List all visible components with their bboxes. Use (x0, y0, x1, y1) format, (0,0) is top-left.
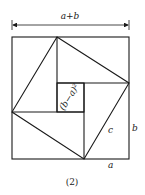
dimension-arrow (12, 20, 129, 30)
side-b-label: b (132, 123, 138, 133)
side-a-label: a (108, 160, 113, 170)
hypotenuse-label: c (108, 125, 113, 135)
inner-square-label: (b−a)² (57, 82, 81, 112)
top-dimension-label: a+b (61, 11, 80, 21)
figure-caption: (2) (66, 177, 79, 187)
pythagorean-diagram: a+b (b−a)² c b a (2) (0, 0, 145, 195)
